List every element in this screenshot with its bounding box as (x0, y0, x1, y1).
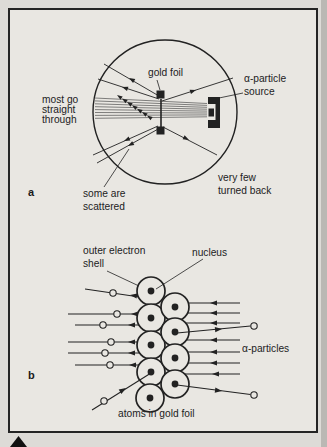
turned-back-label-line1: very few (218, 172, 257, 183)
source-label-line1: α-particle (244, 73, 286, 84)
scattered-label-line2: scattered (83, 201, 125, 212)
atom-circles (136, 277, 189, 412)
alpha-particle-source-shape (208, 97, 220, 128)
scattered-label-line1: some are (83, 188, 126, 199)
alpha-particles-label: α-particles (242, 343, 289, 354)
atoms-caption: atoms in gold foil (118, 408, 194, 419)
turned-back-label-line2: turned back (218, 185, 272, 196)
shell-label-line1: outer electron (83, 245, 145, 256)
figure-page: gold foil α-particle source most go stra… (0, 0, 327, 447)
shell-label-line2: shell (83, 258, 104, 269)
most-go-label-line3: through (42, 114, 77, 125)
panel-a-tag: a (28, 186, 35, 198)
panel-b-tag: b (28, 369, 35, 381)
source-label-line2: source (244, 86, 275, 97)
gold-foil-label: gold foil (148, 67, 183, 78)
rutherford-scattering-diagram: gold foil α-particle source most go stra… (0, 0, 327, 447)
nucleus-label: nucleus (192, 247, 227, 258)
